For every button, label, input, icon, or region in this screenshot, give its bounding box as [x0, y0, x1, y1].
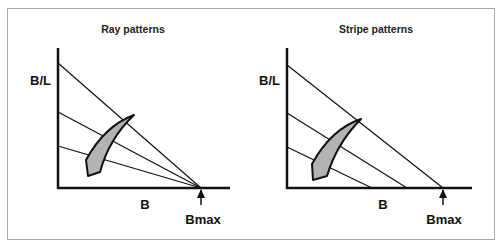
x-axis-label: B	[140, 197, 149, 212]
ray-line	[58, 146, 201, 188]
panel-ray-patterns: Ray patterns B/L B Bmax	[30, 23, 230, 227]
stripe-line	[287, 65, 443, 188]
panel-stripe-patterns: Stripe patterns B/L B Bmax	[259, 23, 472, 227]
diagram-canvas: Ray patterns B/L B Bmax Stripe patterns …	[0, 0, 502, 248]
x-axis-label: B	[378, 197, 387, 212]
bmax-arrow-icon	[197, 189, 205, 198]
ray-line	[58, 112, 201, 188]
panel-title: Ray patterns	[101, 23, 165, 35]
panel-title: Stripe patterns	[339, 23, 413, 35]
bmax-arrow-icon	[439, 189, 447, 198]
bmax-label: Bmax	[185, 212, 221, 227]
y-axis-label: B/L	[30, 73, 51, 88]
bmax-label: Bmax	[426, 212, 462, 227]
data-region-shape	[86, 115, 134, 176]
y-axis-label: B/L	[259, 73, 280, 88]
ray-line	[58, 63, 201, 188]
